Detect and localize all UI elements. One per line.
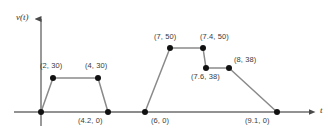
data-point-marker bbox=[200, 45, 206, 51]
data-point-label: (8, 38) bbox=[234, 56, 256, 64]
data-point-label: (4.2, 0) bbox=[78, 117, 103, 125]
data-point-label: (2, 30) bbox=[40, 62, 62, 70]
data-point-label: (9.1, 0) bbox=[245, 117, 270, 125]
data-point-label: (7.6, 38) bbox=[191, 73, 220, 81]
data-point-marker bbox=[142, 109, 148, 115]
data-point-label: (6, 0) bbox=[151, 117, 169, 125]
data-point-marker bbox=[274, 109, 280, 115]
data-point-marker bbox=[226, 65, 232, 71]
data-point-marker bbox=[167, 45, 173, 51]
data-point-marker bbox=[105, 109, 111, 115]
data-point-marker bbox=[95, 75, 101, 81]
velocity-time-graph-figure: v(t) t (2, 30)(4, 30)(4.2, 0)(6, 0)(7, 5… bbox=[0, 0, 328, 133]
x-axis-label: t bbox=[320, 106, 323, 115]
data-point-marker bbox=[38, 109, 44, 115]
data-point-marker bbox=[203, 65, 209, 71]
y-axis-label: v(t) bbox=[16, 13, 29, 22]
data-point-label: (7.4, 50) bbox=[200, 33, 229, 41]
data-point-marker bbox=[50, 75, 56, 81]
data-point-label: (7, 50) bbox=[154, 33, 176, 41]
data-point-label: (4, 30) bbox=[85, 62, 107, 70]
